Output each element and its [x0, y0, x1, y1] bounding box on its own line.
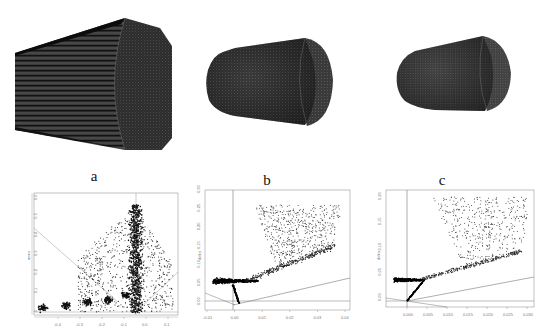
svg-text:0.20: 0.20: [377, 191, 382, 200]
svg-text:0.1: 0.1: [33, 287, 38, 293]
svg-text:-0.2: -0.2: [98, 322, 106, 327]
svg-text:0.02: 0.02: [286, 315, 295, 320]
svg-text:0.010: 0.010: [443, 312, 454, 317]
scatter-points-a: [38, 204, 174, 313]
svg-text:0.00: 0.00: [196, 296, 201, 305]
svg-text:-0.01: -0.01: [203, 315, 213, 320]
svg-text:0.5: 0.5: [33, 212, 38, 218]
cylinder-mesh-b: [195, 30, 345, 130]
svg-text:0.025: 0.025: [503, 312, 514, 317]
svg-text:0.01: 0.01: [258, 315, 267, 320]
svg-text:0.2: 0.2: [33, 268, 38, 274]
cylinder-mesh-c: [385, 33, 515, 123]
scatter-b-svg: -0.010.000.010.020.030.040.000.050.100.1…: [195, 185, 355, 330]
svg-text:0.005: 0.005: [423, 312, 434, 317]
svg-text:0.1: 0.1: [164, 322, 170, 327]
svg-text:0.6: 0.6: [33, 194, 38, 200]
svg-text:0.15: 0.15: [377, 217, 382, 226]
svg-text:0.15: 0.15: [196, 240, 201, 249]
svg-text:0.00: 0.00: [377, 292, 382, 301]
scatter-points-c: [393, 197, 527, 302]
svg-text:0.10: 0.10: [377, 242, 382, 251]
scatter-points-b: [212, 205, 340, 304]
svg-text:0.0: 0.0: [142, 322, 148, 327]
cylinder-mesh-a: [0, 10, 180, 150]
svg-text:-0.4: -0.4: [54, 322, 62, 327]
svg-text:0.30: 0.30: [196, 185, 201, 193]
svg-text:0.030: 0.030: [523, 312, 534, 317]
panel-b-mesh: [195, 30, 345, 130]
scatter-plot-b: -0.010.000.010.020.030.040.000.050.100.1…: [195, 185, 355, 330]
svg-text:0.03: 0.03: [313, 315, 322, 320]
y-axis-label-b: delta: [197, 251, 202, 260]
y-axis-label-a: delta: [28, 251, 31, 260]
svg-text:0.20: 0.20: [196, 222, 201, 231]
panel-a-mesh: [0, 10, 180, 150]
svg-text:0.4: 0.4: [33, 231, 38, 237]
svg-text:0.05: 0.05: [377, 267, 382, 276]
svg-text:-0.3: -0.3: [76, 322, 84, 327]
scatter-a-svg: -0.4-0.3-0.2-0.10.00.100.10.20.30.40.50.…: [28, 190, 180, 330]
y-axis-label-c: delta: [376, 251, 381, 260]
svg-text:0.020: 0.020: [483, 312, 494, 317]
scatter-plot-a: -0.4-0.3-0.2-0.10.00.100.10.20.30.40.50.…: [28, 190, 180, 330]
svg-text:0.3: 0.3: [33, 250, 38, 256]
svg-text:0.015: 0.015: [463, 312, 474, 317]
scatter-c-svg: 0.0000.0050.0100.0150.0200.0250.0300.000…: [372, 185, 541, 330]
svg-text:0.00: 0.00: [231, 315, 240, 320]
svg-text:0.05: 0.05: [196, 278, 201, 287]
svg-text:0.000: 0.000: [403, 312, 414, 317]
svg-text:-0.1: -0.1: [120, 322, 128, 327]
panel-label-a: a: [84, 168, 104, 185]
scatter-plot-c: 0.0000.0050.0100.0150.0200.0250.0300.000…: [372, 185, 541, 330]
axis-ticks-b: -0.010.000.010.020.030.040.000.050.100.1…: [196, 185, 350, 320]
panel-c-mesh: [385, 33, 515, 123]
svg-text:0.25: 0.25: [196, 203, 201, 212]
svg-text:0.04: 0.04: [341, 315, 350, 320]
